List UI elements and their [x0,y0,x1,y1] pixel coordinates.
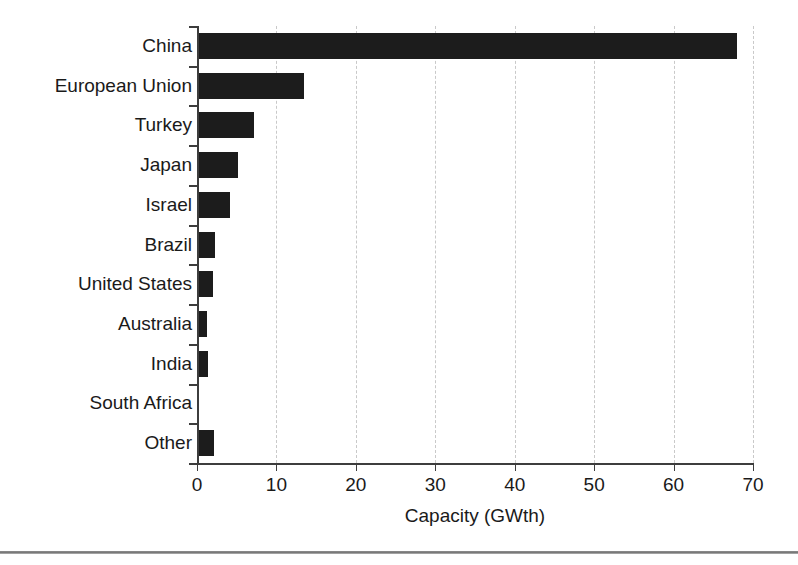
y-axis-label-brazil: Brazil [6,235,192,254]
y-axis-line [197,26,199,464]
gridline-20 [356,26,357,463]
x-tick-label-30: 30 [425,474,446,496]
chart-figure: ChinaEuropean UnionTurkeyJapanIsraelBraz… [0,0,798,565]
x-axis-tick-labels: 010203040506070 [197,474,753,500]
y-axis-labels: ChinaEuropean UnionTurkeyJapanIsraelBraz… [0,26,192,463]
y-axis-label-european-union: European Union [6,76,192,95]
bar-japan [197,152,238,178]
x-tick-label-40: 40 [504,474,525,496]
y-axis-label-japan: Japan [6,155,192,174]
y-axis-label-united-states: United States [6,274,192,293]
x-tick-label-0: 0 [192,474,203,496]
x-tick-label-50: 50 [584,474,605,496]
y-axis-label-south-africa: South Africa [6,393,192,412]
x-tick-label-60: 60 [663,474,684,496]
bar-other [197,430,214,456]
x-tick-label-10: 10 [266,474,287,496]
y-axis-label-israel: Israel [6,195,192,214]
gridline-70 [753,26,754,463]
bar-israel [197,192,230,218]
y-axis-label-turkey: Turkey [6,115,192,134]
bar-brazil [197,232,215,258]
page-bottom-rule [0,551,798,554]
gridline-60 [674,26,675,463]
bar-united-states [197,271,213,297]
gridline-40 [515,26,516,463]
y-axis-label-china: China [6,36,192,55]
x-axis-title: Capacity (GWth) [197,505,753,527]
plot-area [197,26,753,463]
bar-turkey [197,112,254,138]
x-tick-label-20: 20 [345,474,366,496]
x-tick-label-70: 70 [742,474,763,496]
y-axis-label-other: Other [6,433,192,452]
bar-china [197,33,737,59]
gridline-30 [435,26,436,463]
y-axis-label-india: India [6,354,192,373]
y-axis-label-australia: Australia [6,314,192,333]
x-axis-line [196,463,754,465]
bar-european-union [197,73,304,99]
gridline-50 [594,26,595,463]
